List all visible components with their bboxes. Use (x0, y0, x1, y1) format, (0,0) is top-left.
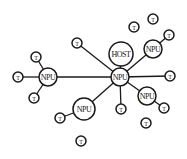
terminal-label: T (34, 55, 38, 61)
terminal-label: T (132, 25, 136, 31)
node-npu-center: NPU (111, 68, 129, 86)
terminal-label: T (144, 121, 148, 127)
node-t7: T (164, 30, 174, 40)
npu-label: NPU (146, 45, 161, 54)
npu-label: NPU (113, 73, 128, 82)
host-label: HOST (112, 50, 132, 59)
node-t1: T (72, 38, 82, 48)
node-t8: T (165, 71, 175, 81)
network-topology-diagram: NPUHOSTNPUNPUNPUNPUTTTTTTTTTTTTT (0, 0, 187, 159)
terminal-label: T (151, 17, 155, 23)
terminal-label: T (162, 106, 166, 112)
node-npu-bottom-left: NPU (73, 98, 95, 120)
terminal-label: T (75, 41, 79, 47)
terminal-label: T (58, 116, 62, 122)
terminal-label: T (16, 75, 20, 81)
node-npu-top-right: NPU (144, 40, 162, 58)
npu-label: NPU (41, 73, 56, 82)
terminal-label: T (168, 74, 172, 80)
node-t2: T (31, 52, 41, 62)
node-t4: T (29, 93, 39, 103)
npu-label: NPU (77, 105, 92, 114)
node-t12: T (55, 113, 65, 123)
node-npu-left: NPU (39, 68, 57, 86)
terminal-label: T (167, 33, 171, 39)
node-host: HOST (109, 42, 133, 66)
node-t3: T (13, 72, 23, 82)
node-t5: T (129, 22, 139, 32)
terminal-label: T (119, 107, 123, 113)
node-t11: T (141, 118, 151, 128)
nodes-layer: NPUHOSTNPUNPUNPUNPUTTTTTTTTTTTTT (13, 14, 175, 146)
terminal-label: T (79, 139, 83, 145)
node-t13: T (76, 136, 86, 146)
node-t10: T (116, 104, 126, 114)
node-t9: T (159, 103, 169, 113)
npu-label: NPU (140, 92, 155, 101)
node-npu-right: NPU (138, 87, 156, 105)
terminal-label: T (32, 96, 36, 102)
node-t6: T (148, 14, 158, 24)
